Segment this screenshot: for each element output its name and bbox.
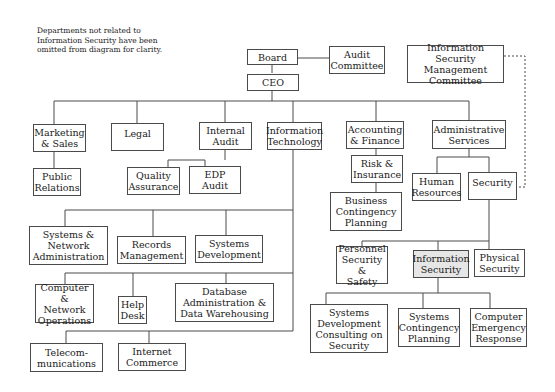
node-computer-emergency-response: Computer Emergency Response [470,308,527,347]
node-business-contingency-planning: Business Contingency Planning [330,192,402,231]
node-audit-committee: Audit Committee [329,46,385,74]
node-ceo: CEO [247,74,299,91]
node-marketing-sales: Marketing & Sales [33,124,86,152]
node-ismc: Information Security Management Committe… [407,45,504,83]
node-internal-audit: Internal Audit [199,122,252,150]
dashed-line-ismc-security [504,56,525,187]
node-information-security: Information Security [413,250,469,278]
node-computer-network-operations: Computer & Network Operations [35,284,94,323]
node-board: Board [247,49,298,65]
node-internet-commerce: Internet Commerce [118,343,186,371]
node-systems-network-administration: Systems & Network Administration [29,226,108,265]
node-quality-assurance: Quality Assurance [127,167,180,195]
node-human-resources: Human Resources [412,173,461,201]
omission-note: Departments not related to Information S… [37,26,162,55]
node-accounting-finance: Accounting & Finance [346,121,404,149]
node-physical-security: Physical Security [474,249,525,277]
node-database-administration: Database Administration & Data Warehousi… [175,283,274,322]
node-risk-insurance: Risk & Insurance [351,155,403,183]
node-public-relations: Public Relations [33,168,81,196]
node-systems-development: Systems Development [195,235,263,263]
org-chart: Departments not related to Information S… [0,0,555,392]
node-systems-contingency-planning: Systems Contingency Planning [398,308,460,347]
node-administrative-services: Administrative Services [432,120,506,149]
node-security: Security [468,172,517,200]
node-information-technology: Information Technology [267,122,322,150]
node-legal: Legal [111,123,164,151]
node-help-desk: Help Desk [118,296,147,324]
node-edp-audit: EDP Audit [189,166,241,194]
node-telecommunications: Telecom- munications [30,343,103,372]
node-systems-development-consulting: Systems Development Consulting on Securi… [310,304,388,353]
node-records-management: Records Management [117,236,186,264]
node-personnel-security-safety: Personnel Security & Safety [336,246,388,284]
